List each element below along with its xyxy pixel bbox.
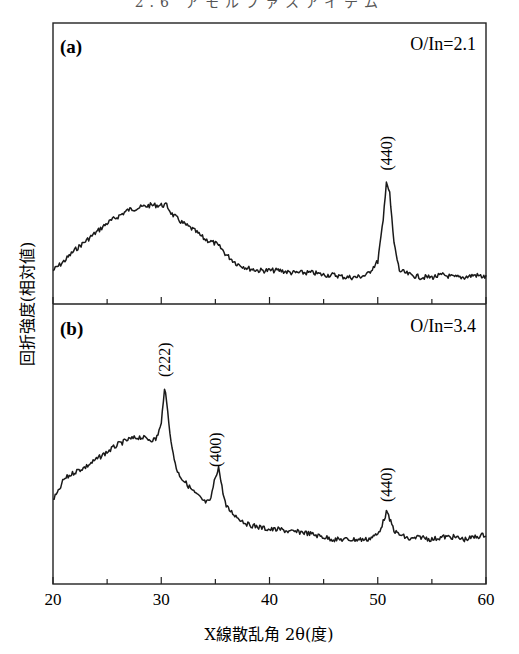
peak-label: (440): [378, 467, 396, 502]
svg-text:50: 50: [369, 590, 386, 609]
peak-label: (222): [156, 342, 174, 377]
svg-text:20: 20: [45, 590, 62, 609]
y-axis-title: 回折強度(相対値): [18, 242, 37, 366]
svg-text:30: 30: [153, 590, 170, 609]
panel-a: (a) O/In=2.1 (440): [53, 34, 486, 280]
x-axis-tick-labels: 2030405060: [45, 590, 495, 609]
panel-b-label: (b): [60, 318, 83, 340]
curve-panel-b: [53, 389, 486, 542]
svg-text:60: 60: [478, 590, 495, 609]
panel-a-peak-labels: (440): [378, 136, 396, 171]
panel-b-peak-labels: (222)(400)(440): [156, 342, 396, 502]
panel-b: (b) O/In=3.4 (222)(400)(440): [53, 316, 486, 542]
peak-label: (400): [207, 432, 225, 467]
panel-b-ratio: O/In=3.4: [410, 316, 476, 336]
svg-text:40: 40: [261, 590, 278, 609]
x-axis-title: X線散乱角 2θ(度): [205, 625, 334, 644]
x-axis-ticks: [53, 297, 486, 584]
xrd-chart: 2030405060 (a) O/In=2.1 (440) (b) O/In=3…: [0, 0, 519, 654]
panel-a-ratio: O/In=2.1: [410, 34, 476, 54]
curve-panel-a: [53, 182, 486, 280]
panel-a-label: (a): [60, 36, 82, 58]
peak-label: (440): [378, 136, 396, 171]
